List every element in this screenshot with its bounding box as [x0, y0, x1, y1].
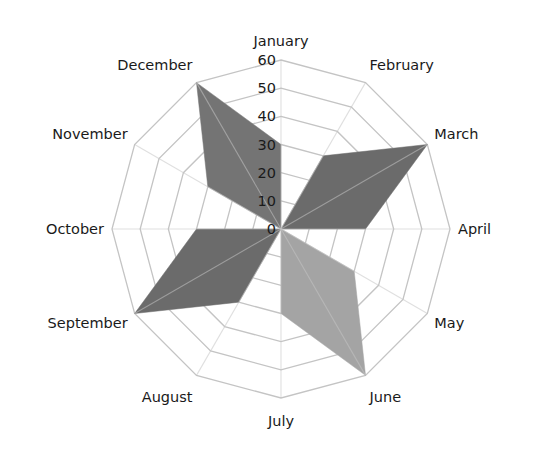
- tick-label-10: 10: [258, 193, 276, 209]
- tick-label-0: 0: [267, 221, 276, 237]
- category-label-september: September: [48, 315, 128, 331]
- tick-label-30: 30: [258, 137, 276, 153]
- category-label-february: February: [370, 57, 435, 73]
- category-label-june: June: [369, 389, 402, 405]
- tick-label-40: 40: [258, 108, 276, 124]
- category-label-may: May: [434, 315, 464, 331]
- tick-label-20: 20: [258, 165, 276, 181]
- category-label-december: December: [117, 57, 192, 73]
- tick-label-60: 60: [258, 52, 276, 68]
- category-label-march: March: [434, 126, 478, 142]
- category-label-october: October: [46, 221, 104, 237]
- category-label-july: July: [267, 413, 294, 429]
- radar-spokes: [112, 60, 450, 398]
- category-label-november: November: [52, 126, 127, 142]
- category-label-april: April: [458, 221, 491, 237]
- tick-label-50: 50: [258, 80, 276, 96]
- category-label-january: January: [253, 33, 309, 49]
- radar-chart: 0102030405060 JanuaryFebruaryMarchAprilM…: [0, 0, 534, 451]
- category-label-august: August: [142, 389, 193, 405]
